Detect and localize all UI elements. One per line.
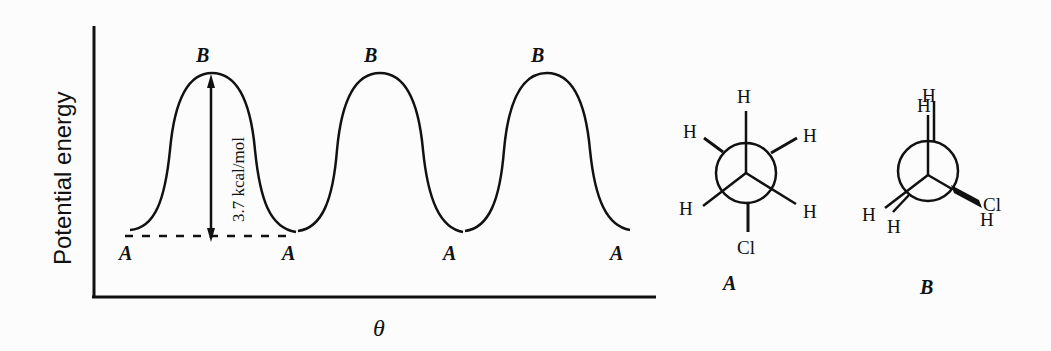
energy-diagram: Potential energy θ 3.7 kcal/mol B B B A … [0,0,1051,351]
atom-label: H [803,125,817,146]
trough-label: A [608,242,623,264]
atom-label: H [917,95,931,116]
trough-label: A [280,242,295,264]
peak-label: B [195,44,209,66]
peak-label: B [363,44,377,66]
arrow-head-up-icon [207,74,215,88]
barrier-label: 3.7 kcal/mol [229,137,248,222]
atom-label: H [737,86,751,107]
atom-label: H [887,216,901,237]
atom-label: H [980,209,994,230]
newman-caption: B [919,276,933,298]
energy-curve [130,73,630,232]
newman-projection-b: H H H H Cl H B [862,85,1001,298]
y-axis-label: Potential energy [49,92,76,265]
x-axis-label: θ [373,315,385,341]
newman-caption: A [721,272,736,294]
atom-label: H [803,201,817,222]
atom-label: H [679,198,693,219]
trough-label: A [117,242,132,264]
trough-label: A [441,242,456,264]
atom-label: H [683,121,697,142]
atom-label: Cl [737,237,755,258]
peak-label: B [530,44,544,66]
newman-projection-a: H H H H H Cl A [679,86,817,294]
atom-label: H [862,204,876,225]
